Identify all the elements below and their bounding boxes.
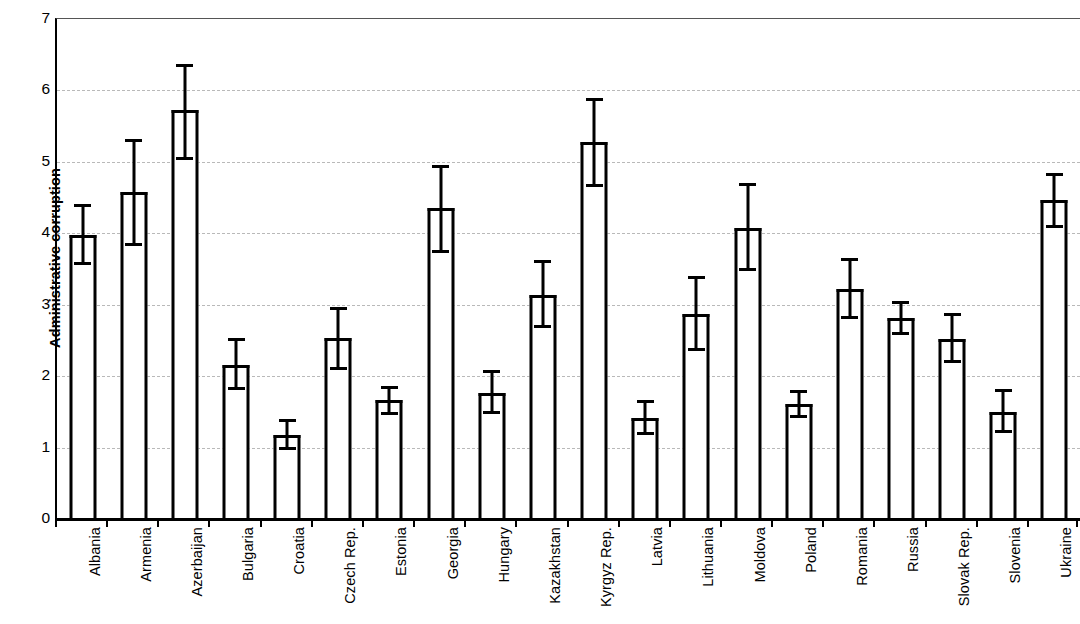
error-bar-cap-top [637, 400, 654, 403]
x-tick-mark [873, 518, 875, 527]
error-bar-cap-bottom [176, 157, 193, 160]
error-bar [132, 139, 135, 246]
y-axis-tick-labels: 01234567 [20, 0, 50, 624]
bar-group [364, 19, 415, 519]
x-tick-mark [106, 518, 108, 527]
bar [887, 318, 914, 519]
x-tick-mark [157, 518, 159, 527]
x-tick-mark [1027, 518, 1029, 527]
error-bar-cap-top [586, 98, 603, 101]
error-bar [1002, 389, 1005, 433]
error-bar-cap-bottom [74, 262, 91, 265]
x-category-label: Azerbaijan [189, 527, 205, 624]
x-category-label: Czech Rep. [342, 527, 358, 624]
x-category-label: Poland [803, 527, 819, 624]
bar [581, 142, 608, 519]
bar-group [415, 19, 466, 519]
x-category-label: Croatia [291, 527, 307, 624]
error-bar-cap-top [841, 258, 858, 261]
x-category-label: Romania [854, 527, 870, 624]
error-bar [490, 370, 493, 414]
bar [785, 404, 812, 519]
error-bar-cap-bottom [995, 430, 1012, 433]
error-bar-cap-top [381, 386, 398, 389]
x-tick-mark [618, 518, 620, 527]
x-tick-mark [771, 518, 773, 527]
error-bar-cap-bottom [432, 250, 449, 253]
x-tick-mark [822, 518, 824, 527]
error-bar-cap-bottom [483, 411, 500, 414]
bar-group [927, 19, 978, 519]
bar-group [57, 19, 108, 519]
error-bar-cap-bottom [330, 367, 347, 370]
bar-group [262, 19, 313, 519]
x-category-label: Moldova [752, 527, 768, 624]
error-bar-cap-bottom [125, 243, 142, 246]
x-tick-mark [260, 518, 262, 527]
error-bar [183, 64, 186, 160]
x-category-label: Armenia [138, 527, 154, 624]
error-bar-cap-bottom [841, 316, 858, 319]
error-bar-cap-top [74, 204, 91, 207]
error-bar-cap-bottom [534, 325, 551, 328]
error-bar-cap-bottom [892, 332, 909, 335]
error-bar [797, 390, 800, 417]
error-bar-cap-bottom [944, 360, 961, 363]
x-category-label: Estonia [393, 527, 409, 624]
bar [69, 235, 96, 519]
error-bar-cap-top [483, 370, 500, 373]
y-tick-label: 5 [20, 152, 50, 170]
x-tick-mark [413, 518, 415, 527]
x-category-label: Ukraine [1058, 527, 1074, 624]
error-bar [81, 204, 84, 265]
y-tick-label: 4 [20, 223, 50, 241]
error-bar [644, 400, 647, 435]
bar [529, 295, 556, 519]
x-category-label: Hungary [496, 527, 512, 624]
error-bar [695, 276, 698, 351]
x-category-label: Bulgaria [240, 527, 256, 624]
error-bar [286, 419, 289, 450]
x-axis-tick-marks [55, 518, 1078, 527]
plot-area [55, 18, 1080, 519]
error-bar [1053, 173, 1056, 228]
error-bar-cap-bottom [279, 447, 296, 450]
x-category-label: Albania [87, 527, 103, 624]
bar-group [517, 19, 568, 519]
error-bar-cap-top [790, 390, 807, 393]
x-category-label: Slovenia [1007, 527, 1023, 624]
error-bar-cap-bottom [1046, 225, 1063, 228]
bar [376, 400, 403, 519]
error-bar [388, 386, 391, 415]
bar-group [569, 19, 620, 519]
x-tick-mark [362, 518, 364, 527]
bar-group [313, 19, 364, 519]
bar-group [159, 19, 210, 519]
bar [939, 339, 966, 519]
x-category-label: Georgia [445, 527, 461, 624]
error-bar [235, 338, 238, 390]
error-bar-cap-bottom [637, 432, 654, 435]
error-bar [899, 301, 902, 335]
error-bar-cap-top [432, 165, 449, 168]
x-tick-mark [55, 518, 57, 527]
error-bar [746, 183, 749, 271]
error-bar-cap-bottom [790, 415, 807, 418]
bar-group [620, 19, 671, 519]
error-bar-cap-bottom [739, 268, 756, 271]
error-bar [848, 258, 851, 319]
chart-title-clipped [0, 0, 1078, 8]
x-category-label: Kyrgyz Rep. [598, 527, 614, 624]
x-tick-mark [976, 518, 978, 527]
x-tick-mark [464, 518, 466, 527]
error-bar-cap-top [995, 389, 1012, 392]
bar-group [1029, 19, 1080, 519]
x-category-label: Kazakhstan [547, 527, 563, 624]
bar [171, 110, 198, 519]
error-bar [541, 260, 544, 328]
error-bar-cap-top [279, 419, 296, 422]
x-category-label: Latvia [649, 527, 665, 624]
x-tick-mark [208, 518, 210, 527]
x-tick-mark [925, 518, 927, 527]
